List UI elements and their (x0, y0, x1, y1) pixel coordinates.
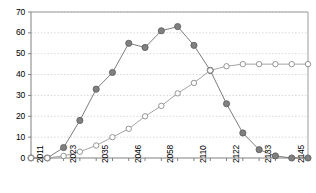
y-tick-label: 10 (3, 132, 25, 142)
x-tick-label: 2122 (231, 145, 241, 163)
data-point (142, 114, 147, 119)
x-tick-label: 2035 (100, 145, 110, 163)
data-point (60, 144, 66, 150)
data-point (126, 40, 132, 46)
data-point (175, 24, 181, 30)
data-point (256, 61, 261, 66)
x-tick-label: 2023 (68, 145, 78, 163)
data-point (223, 101, 229, 107)
y-tick-label: 50 (3, 48, 25, 58)
data-point (28, 155, 33, 160)
y-tick-label: 20 (3, 111, 25, 121)
data-point (305, 61, 310, 66)
data-point (110, 134, 115, 139)
x-tick-label: 2046 (133, 145, 143, 163)
y-tick-label: 70 (3, 7, 25, 17)
y-tick-label: 60 (3, 27, 25, 37)
x-tick-label: 2058 (165, 145, 175, 163)
data-point (256, 147, 262, 153)
data-point (272, 153, 278, 159)
data-point (142, 44, 148, 50)
data-point (273, 61, 278, 66)
data-series-layer (28, 24, 311, 162)
gridlines (31, 12, 308, 137)
data-point (240, 61, 245, 66)
chart-container: 010203040506070 201120232035204620582110… (0, 0, 316, 193)
x-tick-label: 2145 (296, 145, 306, 163)
data-point (109, 69, 115, 75)
plot-frame (31, 12, 308, 158)
data-point (191, 42, 197, 48)
data-point (126, 126, 131, 131)
data-point (289, 155, 295, 161)
series-line-filled-series (31, 27, 308, 158)
data-point (93, 86, 99, 92)
y-tick-label: 0 (3, 153, 25, 163)
y-tick-label: 40 (3, 69, 25, 79)
y-tick-label: 30 (3, 90, 25, 100)
data-point (175, 91, 180, 96)
line-chart-plot (0, 0, 316, 193)
x-tick-label: 2110 (198, 146, 208, 163)
data-point (77, 117, 83, 123)
data-point (240, 130, 246, 136)
data-point (61, 153, 66, 158)
data-point (208, 68, 213, 73)
data-point (45, 155, 50, 160)
data-point (158, 28, 164, 34)
data-point (191, 80, 196, 85)
x-tick-label: 2011 (35, 146, 45, 163)
x-tick-label: 2133 (263, 145, 273, 163)
data-point (289, 61, 294, 66)
data-point (224, 64, 229, 69)
data-point (93, 143, 98, 148)
data-point (159, 103, 164, 108)
